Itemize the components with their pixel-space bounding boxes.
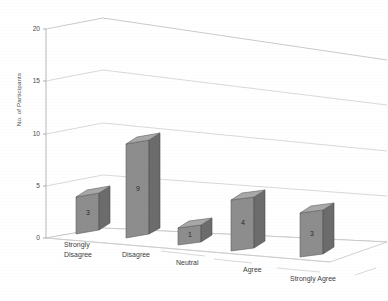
y-tick-label-10: 10	[18, 130, 40, 137]
y-tick-label-0: 0	[18, 234, 40, 241]
bar-side-face	[254, 190, 265, 248]
category-label-strongly-disagree: Strongly Disagree	[64, 240, 110, 259]
category-label-agree: Agree	[243, 265, 262, 275]
gridline-20	[46, 18, 387, 60]
y-tick-label-5: 5	[18, 182, 40, 189]
bar-side-face	[323, 203, 334, 254]
y-axis-title: No. of Participants	[15, 46, 22, 154]
leader-line-neutral	[214, 259, 252, 263]
chart-plot-area	[0, 0, 388, 301]
bar-side-face	[99, 186, 110, 230]
leader-line-agree	[277, 268, 320, 272]
category-label-neutral: Neutral	[176, 258, 199, 268]
bar-value-neutral: 1	[183, 231, 197, 238]
y-tick-label-15: 15	[18, 77, 40, 84]
gridline-15	[46, 70, 387, 105]
category-label-disagree: Disagree	[122, 250, 150, 260]
category-label-line2: Disagree	[64, 251, 92, 258]
bar-value-agree: 4	[236, 219, 250, 226]
bar-value-disagree: 9	[131, 185, 145, 192]
bar-value-strongly-agree: 3	[305, 230, 319, 237]
y-tick-label-20: 20	[18, 25, 40, 32]
category-label-line1: Strongly	[64, 241, 90, 248]
leader-line-strongly-agree	[355, 268, 376, 275]
category-label-strongly-agree: Strongly Agree	[290, 274, 336, 284]
leader-line-disagree	[161, 251, 205, 256]
gridline-10	[46, 123, 387, 151]
bar-value-strongly-disagree: 3	[81, 209, 95, 216]
bar-side-face	[149, 133, 160, 234]
bar-chart: No. of Participants 20 15 10 5 0 3 9 1 4…	[0, 0, 388, 301]
